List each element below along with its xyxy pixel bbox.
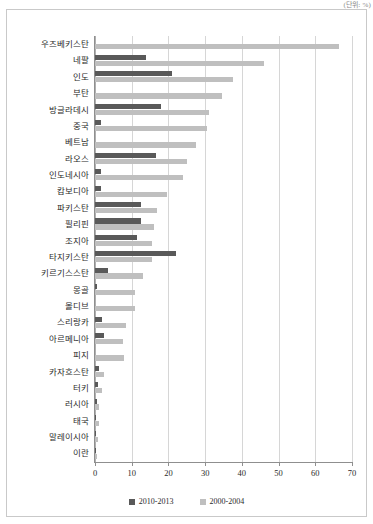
y-axis-label: 스리랑카 [15,314,93,330]
bar-row [95,445,352,461]
x-tick-20 [168,462,169,466]
y-axis-label: 우즈베키스탄 [15,36,93,52]
bar-row [95,282,352,298]
y-axis-label: 캄보디아 [15,183,93,199]
bar-row [95,233,352,249]
bar-2000-2004[interactable] [95,257,152,262]
bar-row [95,380,352,396]
y-axis-line [94,36,95,463]
bar-2000-2004[interactable] [95,159,187,164]
bar-2000-2004[interactable] [95,323,126,328]
unit-caption: (단위: %) [343,0,371,9]
bar-2000-2004[interactable] [95,241,152,246]
legend-item[interactable]: 2010-2013 [129,497,174,506]
y-axis-label: 말레이시아 [15,429,93,445]
bar-2000-2004[interactable] [95,273,143,278]
bar-2010-2013[interactable] [95,120,101,125]
bar-2010-2013[interactable] [95,235,137,240]
bar-2000-2004[interactable] [95,437,98,442]
y-axis-label: 베트남 [15,134,93,150]
bar-2010-2013[interactable] [95,317,102,322]
bar-row [95,331,352,347]
y-axis-label: 파키스탄 [15,200,93,216]
bar-2010-2013[interactable] [95,104,161,109]
x-tick-10 [132,462,133,466]
y-axis-label: 터키 [15,380,93,396]
y-axis-label: 몽골 [15,282,93,298]
bar-row [95,134,352,150]
x-tick-0 [95,462,96,466]
bar-2000-2004[interactable] [95,404,99,409]
bar-2000-2004[interactable] [95,355,124,360]
bar-2000-2004[interactable] [95,339,123,344]
bar-row [95,118,352,134]
y-axis-label: 인도네시아 [15,167,93,183]
bar-2010-2013[interactable] [95,186,101,191]
y-axis-label: 러시아 [15,396,93,412]
bar-2000-2004[interactable] [95,142,196,147]
x-tick-label-50: 50 [274,468,283,478]
chart-legend: 2010-20132000-2004 [7,497,366,506]
bar-row [95,102,352,118]
x-tick-label-70: 70 [348,468,357,478]
bar-2000-2004[interactable] [95,192,167,197]
bar-2010-2013[interactable] [95,169,101,174]
x-tick-40 [242,462,243,466]
bar-row [95,249,352,265]
bar-2000-2004[interactable] [95,421,99,426]
bar-2010-2013[interactable] [95,202,141,207]
bar-row [95,167,352,183]
bar-2010-2013[interactable] [95,399,97,404]
bar-row [95,314,352,330]
y-axis-label: 태국 [15,413,93,429]
bar-2000-2004[interactable] [95,372,104,377]
bar-2010-2013[interactable] [95,218,141,223]
bar-2000-2004[interactable] [95,110,209,115]
bar-2000-2004[interactable] [95,126,207,131]
bar-2010-2013[interactable] [95,333,104,338]
bar-2010-2013[interactable] [95,448,96,453]
y-axis-label: 네팔 [15,52,93,68]
bar-2000-2004[interactable] [95,77,233,82]
bar-2010-2013[interactable] [95,431,96,436]
bar-2010-2013[interactable] [95,366,99,371]
bar-2000-2004[interactable] [95,175,183,180]
x-tick-label-10: 10 [127,468,136,478]
bar-2000-2004[interactable] [95,61,264,66]
bar-2010-2013[interactable] [95,153,156,158]
bar-2010-2013[interactable] [95,284,97,289]
chart-page: (단위: %) 우즈베키스탄네팔인도부탄방글라데시중국베트남라오스인도네시아캄보… [0,0,373,524]
legend-item[interactable]: 2000-2004 [200,497,245,506]
y-axis-label: 필리핀 [15,216,93,232]
bar-2000-2004[interactable] [95,306,135,311]
bar-2010-2013[interactable] [95,268,108,273]
bar-2000-2004[interactable] [95,290,135,295]
x-tick-60 [315,462,316,466]
y-axis-label: 키르기스스탄 [15,265,93,281]
y-axis-label: 조지아 [15,233,93,249]
bar-row [95,69,352,85]
y-axis-label: 방글라데시 [15,102,93,118]
y-axis-label: 이란 [15,445,93,461]
x-tick-50 [279,462,280,466]
bar-2000-2004[interactable] [95,44,339,49]
y-axis-label: 카자흐스탄 [15,364,93,380]
x-tick-label-40: 40 [238,468,247,478]
bar-row [95,364,352,380]
bar-2000-2004[interactable] [95,454,97,459]
bar-2010-2013[interactable] [95,382,98,387]
bar-2010-2013[interactable] [95,55,146,60]
bar-2010-2013[interactable] [95,415,96,420]
legend-swatch-icon [129,499,135,505]
bar-2000-2004[interactable] [95,224,154,229]
bar-row [95,183,352,199]
bar-row [95,200,352,216]
bar-2010-2013[interactable] [95,71,172,76]
bar-row [95,298,352,314]
x-tick-label-0: 0 [93,468,97,478]
y-axis-label: 몰디브 [15,298,93,314]
bar-2000-2004[interactable] [95,388,102,393]
bar-2000-2004[interactable] [95,93,222,98]
bar-2000-2004[interactable] [95,208,157,213]
bar-2010-2013[interactable] [95,251,176,256]
